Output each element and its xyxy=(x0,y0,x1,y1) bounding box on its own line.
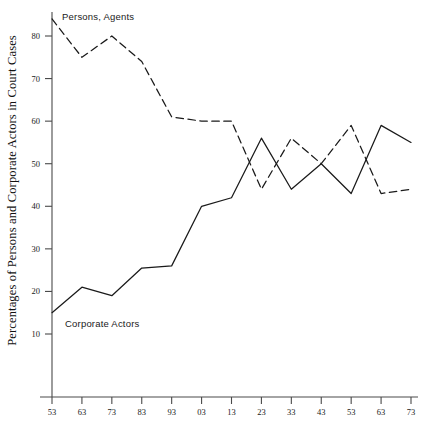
series-label-persons-agents: Persons, Agents xyxy=(62,11,134,22)
series-label-corporate-actors: Corporate Actors xyxy=(65,318,139,329)
x-tick-label: 53 xyxy=(42,407,62,417)
x-tick-label: 13 xyxy=(222,407,242,417)
x-tick-label: 33 xyxy=(281,407,301,417)
x-tick-label: 63 xyxy=(371,407,391,417)
y-tick-label: 80 xyxy=(22,31,40,41)
y-tick-label: 10 xyxy=(22,329,40,339)
x-tick-label: 83 xyxy=(132,407,152,417)
x-tick-label: 53 xyxy=(341,407,361,417)
x-tick-label: 43 xyxy=(311,407,331,417)
x-tick-label: 73 xyxy=(102,407,122,417)
y-tick-label: 50 xyxy=(22,159,40,169)
y-tick-label: 60 xyxy=(22,116,40,126)
y-tick-label: 70 xyxy=(22,74,40,84)
x-tick-label: 93 xyxy=(162,407,182,417)
x-tick-label: 63 xyxy=(72,407,92,417)
y-tick-label: 30 xyxy=(22,244,40,254)
x-tick-label: 73 xyxy=(401,407,421,417)
line-chart-plot xyxy=(0,0,422,423)
y-axis-ticks xyxy=(45,36,52,334)
x-axis-ticks xyxy=(52,397,411,404)
y-tick-label: 40 xyxy=(22,201,40,211)
series-line-persons-agents xyxy=(52,19,411,194)
chart-figure: Percentages of Persons and Corporate Act… xyxy=(0,0,422,423)
x-tick-label: 03 xyxy=(192,407,212,417)
series-line-corporate-actors xyxy=(52,125,411,312)
x-tick-label: 23 xyxy=(251,407,271,417)
y-tick-label: 20 xyxy=(22,286,40,296)
axis-lines xyxy=(40,12,418,397)
